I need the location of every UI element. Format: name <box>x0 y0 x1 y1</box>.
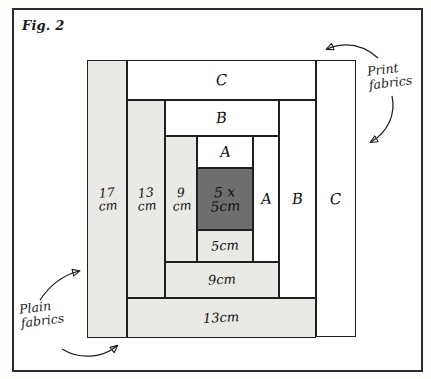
strip-bottom-9cm-label: 9cm <box>208 273 237 288</box>
strip-bottom-5cm-label: 5cm <box>211 239 240 254</box>
strip-right-c: C <box>316 60 356 337</box>
strip-left-9cm-label: 9 cm <box>170 185 191 213</box>
strip-top-c: C <box>127 60 316 100</box>
strip-left-17cm-label: 17 cm <box>96 185 117 213</box>
strip-top-c-label: C <box>215 71 228 90</box>
strip-top-a-label: A <box>219 143 231 162</box>
annotation-print-fabrics: Print fabrics <box>366 59 413 93</box>
strip-top-a: A <box>197 136 253 168</box>
annotation-plain-fabrics: Plain fabrics <box>18 297 65 331</box>
strip-left-13cm: 13 cm <box>127 100 165 298</box>
strip-top-b: B <box>165 100 279 136</box>
strip-bottom-13cm: 13cm <box>127 298 316 338</box>
strip-bottom-5cm: 5cm <box>197 230 253 262</box>
strip-left-17cm: 17 cm <box>87 60 127 338</box>
strip-right-a-label: A <box>260 190 272 209</box>
log-cabin-block: 17 cm C C 13cm 13 cm B B 9cm 9 cm <box>87 60 356 338</box>
strip-top-b-label: B <box>216 109 228 128</box>
strip-right-b-label: B <box>291 190 303 209</box>
strip-right-a: A <box>253 136 279 262</box>
centre-square: 5 x 5cm <box>197 168 253 230</box>
strip-left-13cm-label: 13 cm <box>135 185 156 213</box>
strip-bottom-9cm: 9cm <box>165 262 279 298</box>
figure-canvas: Fig. 2 17 cm C C 13cm 13 cm B B <box>0 0 431 379</box>
strip-bottom-13cm-label: 13cm <box>203 310 240 325</box>
strip-left-9cm: 9 cm <box>165 136 197 262</box>
figure-title: Fig. 2 <box>22 18 65 33</box>
centre-square-label: 5 x 5cm <box>209 184 240 214</box>
strip-right-b: B <box>279 100 316 298</box>
strip-right-c-label: C <box>330 189 343 208</box>
